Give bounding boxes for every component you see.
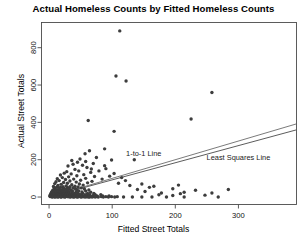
x-axis-title: Fitted Street Totals xyxy=(0,224,307,234)
data-point xyxy=(179,192,182,195)
data-point xyxy=(110,158,113,161)
x-tick-label: 0 xyxy=(47,211,51,220)
data-point xyxy=(140,182,143,185)
y-tick-label: 800 xyxy=(29,41,38,54)
data-point xyxy=(76,195,79,198)
data-point xyxy=(117,182,120,185)
data-point xyxy=(87,195,90,198)
data-point xyxy=(124,179,127,182)
data-point xyxy=(76,161,79,164)
data-point xyxy=(124,79,127,82)
data-point xyxy=(165,195,168,198)
trend-line xyxy=(49,130,296,197)
data-point xyxy=(67,175,70,178)
data-point xyxy=(64,178,67,181)
data-point xyxy=(87,119,90,122)
y-tick-label: 0 xyxy=(29,195,38,199)
data-point xyxy=(83,195,86,198)
x-tick-label: 100 xyxy=(106,211,119,220)
data-point xyxy=(88,149,91,152)
plot-annotation: Least Squares Line xyxy=(207,153,271,162)
data-point xyxy=(72,177,75,180)
data-point xyxy=(93,175,96,178)
plot-frame xyxy=(42,23,297,205)
data-point xyxy=(104,167,107,170)
y-tick-label: 400 xyxy=(29,116,38,129)
data-point xyxy=(128,184,131,187)
data-point xyxy=(61,176,64,179)
data-point xyxy=(84,160,87,163)
data-point xyxy=(81,164,84,167)
data-point xyxy=(136,188,139,191)
data-point xyxy=(97,195,100,198)
data-point xyxy=(171,187,174,190)
data-point xyxy=(131,195,134,198)
data-point xyxy=(210,191,213,194)
data-point xyxy=(63,195,66,198)
data-point xyxy=(152,185,155,188)
data-point xyxy=(92,162,95,165)
data-point xyxy=(71,162,74,165)
data-point xyxy=(157,193,160,196)
data-point xyxy=(108,174,111,177)
data-point xyxy=(90,167,93,170)
data-point xyxy=(143,190,146,193)
data-point xyxy=(53,195,56,198)
data-point xyxy=(148,186,151,189)
data-point xyxy=(118,29,121,32)
y-axis-title: Actual Street Totals xyxy=(16,46,26,176)
plot-annotation: 1-to-1 Line xyxy=(126,149,161,158)
data-point xyxy=(56,195,59,198)
data-point xyxy=(69,172,72,175)
data-layer: 1-to-1 LineLeast Squares Line xyxy=(48,29,296,199)
data-point xyxy=(177,183,180,186)
data-point xyxy=(73,168,76,171)
data-point xyxy=(114,74,117,77)
data-point xyxy=(75,180,78,183)
data-point xyxy=(84,177,87,180)
data-point xyxy=(89,171,92,174)
data-point xyxy=(133,158,136,161)
data-point xyxy=(59,195,62,198)
data-point xyxy=(85,166,88,169)
data-point xyxy=(90,180,93,183)
data-point xyxy=(217,195,220,198)
data-point xyxy=(100,177,103,180)
data-point xyxy=(81,183,84,186)
data-point xyxy=(83,152,86,155)
x-tick-label: 300 xyxy=(232,211,245,220)
data-point xyxy=(182,195,185,198)
data-point xyxy=(79,179,82,182)
data-point xyxy=(80,186,83,189)
data-point xyxy=(112,172,115,175)
scatter-plot-figure: Actual Homeless Counts by Fitted Homeles… xyxy=(0,0,307,243)
data-point xyxy=(77,169,80,172)
data-point xyxy=(189,117,192,120)
data-point xyxy=(66,164,69,167)
data-point xyxy=(97,169,100,172)
data-point xyxy=(86,181,89,184)
data-point xyxy=(57,179,60,182)
x-tick-label: 200 xyxy=(169,211,182,220)
data-point xyxy=(63,171,66,174)
data-point xyxy=(122,195,125,198)
data-point xyxy=(113,195,116,198)
data-point xyxy=(75,174,78,177)
plot-canvas: 1-to-1 LineLeast Squares Line01002003000… xyxy=(0,0,307,243)
data-point xyxy=(210,91,213,94)
data-point xyxy=(78,182,81,185)
data-point xyxy=(107,195,110,198)
data-point xyxy=(95,156,98,159)
data-point xyxy=(102,195,105,198)
y-tick-label: 600 xyxy=(29,79,38,92)
data-point xyxy=(112,130,115,133)
data-point xyxy=(103,164,106,167)
data-point xyxy=(182,190,185,193)
data-point xyxy=(90,195,93,198)
data-point xyxy=(120,176,123,179)
y-tick-label: 200 xyxy=(29,153,38,166)
data-point xyxy=(93,195,96,198)
data-point xyxy=(227,188,230,191)
data-point xyxy=(194,189,197,192)
data-point xyxy=(78,157,81,160)
